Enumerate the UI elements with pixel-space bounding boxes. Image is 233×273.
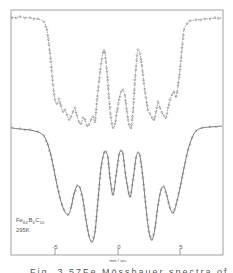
data-point <box>200 19 202 21</box>
upper-spectrum-line <box>12 17 222 129</box>
data-point <box>70 116 72 118</box>
x-tick-label-5: 5 <box>179 244 183 250</box>
x-axis-label: mm / sec <box>110 258 127 263</box>
data-point <box>24 17 26 19</box>
data-point <box>72 111 74 113</box>
data-point <box>90 119 92 121</box>
lower-spectrum-fit-line <box>12 126 222 242</box>
data-point <box>149 113 151 115</box>
data-point <box>173 91 175 93</box>
x-tick-label-0: 0 <box>117 244 121 250</box>
upper-spectrum-points <box>11 16 219 129</box>
data-point <box>19 16 21 18</box>
data-point <box>78 121 80 123</box>
sample-composition-label: Fe84B6C10 <box>16 217 45 225</box>
data-point <box>59 102 61 104</box>
data-point <box>153 119 155 121</box>
mossbauer-spectrum-figure: -5 0 5 mm / sec Fe84B6C10 295K <box>0 0 233 273</box>
data-point <box>88 124 90 126</box>
x-tick-label-neg5: -5 <box>52 244 58 250</box>
x-axis-ticks: -5 0 5 <box>52 244 183 255</box>
data-point <box>86 125 88 127</box>
temperature-label: 295K <box>16 227 30 233</box>
lower-spectrum-points <box>11 126 217 243</box>
figure-caption: Fig. 3 57Fe Mössbauer spectra of Fe84 <box>30 266 230 273</box>
plot-frame <box>11 10 223 255</box>
